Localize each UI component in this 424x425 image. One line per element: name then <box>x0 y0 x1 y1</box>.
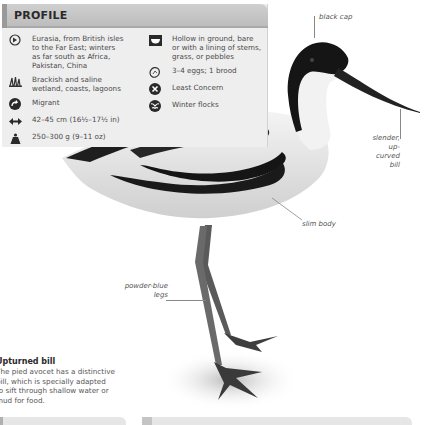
next-section-bar-right <box>142 417 412 425</box>
next-section-bar-left <box>0 417 126 425</box>
fact-nest: Hollow in ground, bare or with a lining … <box>148 34 270 61</box>
fact-habitat-text: Brackish and saline wetland, coasts, lag… <box>32 75 121 93</box>
profile-title: PROFILE <box>14 9 67 22</box>
label-bill: slender, up-curved bill <box>368 134 400 170</box>
label-slim-body: slim body <box>302 220 336 229</box>
fact-weight-text: 250–300 g (9–11 oz) <box>32 132 106 141</box>
profile-header: PROFILE <box>2 4 268 28</box>
fact-social-text: Winter flocks <box>172 100 219 109</box>
label-black-cap: black cap <box>319 13 352 22</box>
fact-migration: Migrant <box>8 98 140 110</box>
fact-eggs-text: 3–4 eggs; 1 brood <box>172 66 237 75</box>
header-tab-mark <box>2 4 7 28</box>
caption-upturned-bill: Upturned bill The pied avocet has a dist… <box>0 357 164 405</box>
profile-panel: PROFILE Eurasia, from British isles to t… <box>2 4 268 147</box>
fact-weight: 250–300 g (9–11 oz) <box>8 132 140 144</box>
weight-icon <box>8 132 22 144</box>
fact-habitat: Brackish and saline wetland, coasts, lag… <box>8 75 140 93</box>
fact-nest-text: Hollow in ground, bare or with a lining … <box>172 34 261 61</box>
fact-length-text: 42–45 cm (16½–17½ in) <box>32 115 120 124</box>
nest-icon <box>148 34 162 46</box>
leader-black-cap <box>314 16 315 38</box>
label-legs: powder-blue legs <box>104 282 168 300</box>
caption-title: Upturned bill <box>0 357 164 367</box>
fact-status: Least Concern <box>148 83 270 95</box>
fact-range-text: Eurasia, from British isles to the Far E… <box>32 34 123 70</box>
leader-bill <box>400 109 401 139</box>
fact-eggs: 3–4 eggs; 1 brood <box>148 66 270 78</box>
caption-body: The pied avocet has a distinctive bill, … <box>0 367 164 405</box>
bar-tab-mark <box>0 417 3 425</box>
fact-length: 42–45 cm (16½–17½ in) <box>8 115 140 127</box>
fact-social: Winter flocks <box>148 100 270 112</box>
social-flock-icon <box>148 100 162 112</box>
fact-range: Eurasia, from British isles to the Far E… <box>8 34 140 70</box>
length-arrows-icon <box>8 115 22 127</box>
migrant-arrow-icon <box>8 98 22 110</box>
conservation-status-icon <box>148 83 162 95</box>
globe-range-icon <box>8 34 22 46</box>
fact-status-text: Least Concern <box>172 83 223 92</box>
profile-facts-right: Hollow in ground, bare or with a lining … <box>148 34 270 117</box>
egg-icon <box>148 66 162 78</box>
reeds-habitat-icon <box>8 75 22 87</box>
leader-legs <box>166 300 206 301</box>
fact-migration-text: Migrant <box>32 98 60 107</box>
bar-tab-mark <box>142 417 152 425</box>
profile-facts-left: Eurasia, from British isles to the Far E… <box>8 34 140 149</box>
